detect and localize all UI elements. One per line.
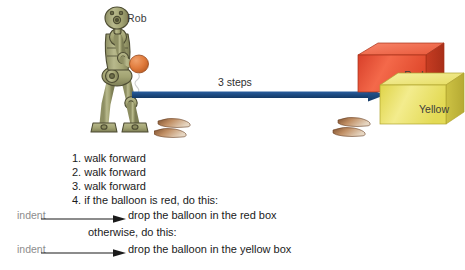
footprints-left (154, 114, 200, 142)
distance-label: 3 steps (218, 76, 252, 88)
footprints-right (330, 114, 376, 142)
robot-svg (82, 4, 164, 144)
yellow-box (378, 70, 465, 128)
instruction-step-4: 4. if the balloon is red, do this: (72, 194, 218, 207)
indent-arrow-1-svg (41, 214, 127, 224)
footprints-left-svg (154, 114, 200, 142)
indent-arrow-1 (41, 210, 127, 220)
robot-name-label: Rob (127, 12, 147, 24)
instruction-branch-true: drop the balloon in the red box (128, 209, 277, 222)
instruction-list: 1. walk forward 2. walk forward 3. walk … (0, 148, 465, 270)
robot-illustration (82, 4, 164, 144)
diagram-canvas: Rob 3 steps (0, 0, 465, 270)
instruction-branch-false: drop the balloon in the yellow box (128, 243, 291, 256)
instruction-step-3: 3. walk forward (72, 180, 146, 193)
instruction-step-1: 1. walk forward (72, 152, 146, 165)
distance-arrow-svg (132, 86, 387, 104)
instruction-otherwise: otherwise, do this: (88, 226, 177, 239)
indent-arrow-2 (41, 244, 127, 254)
instruction-step-2: 2. walk forward (72, 166, 146, 179)
indent-arrow-2-svg (41, 248, 127, 258)
distance-arrow (132, 86, 387, 104)
footprints-right-svg (330, 114, 376, 142)
yellow-box-svg (378, 70, 465, 128)
